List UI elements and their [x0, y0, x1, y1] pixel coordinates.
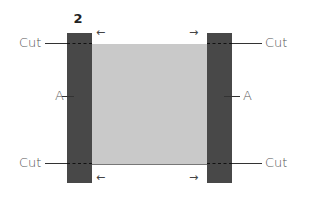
cut-leader-bottom-right — [232, 163, 262, 164]
cut-dash-bottom-right — [207, 163, 232, 164]
cut-leader-top-left — [45, 43, 67, 44]
cut-label-top-right: Cut — [265, 36, 287, 50]
cut-label-bottom-left: Cut — [19, 156, 41, 170]
cut-dash-top-right — [207, 43, 232, 44]
arrow-right-icon: → — [189, 26, 198, 39]
center-fabric-panel — [92, 44, 207, 165]
left-strip-a — [67, 33, 92, 183]
a-label-left: A — [55, 89, 64, 103]
right-strip-a — [207, 33, 232, 183]
a-leader-right — [224, 96, 240, 97]
arrow-left-icon: ← — [96, 171, 105, 184]
a-label-right: A — [243, 89, 252, 103]
cut-label-top-left: Cut — [19, 36, 41, 50]
arrow-right-icon: → — [189, 171, 198, 184]
cut-leader-bottom-left — [45, 163, 67, 164]
cut-leader-top-right — [232, 43, 262, 44]
cut-dash-bottom-left — [67, 163, 92, 164]
cut-dash-top-left — [67, 43, 92, 44]
arrow-left-icon: ← — [96, 26, 105, 39]
cut-label-bottom-right: Cut — [265, 156, 287, 170]
step-number: 2 — [70, 11, 86, 26]
fabric-bottom-edge — [92, 164, 207, 165]
